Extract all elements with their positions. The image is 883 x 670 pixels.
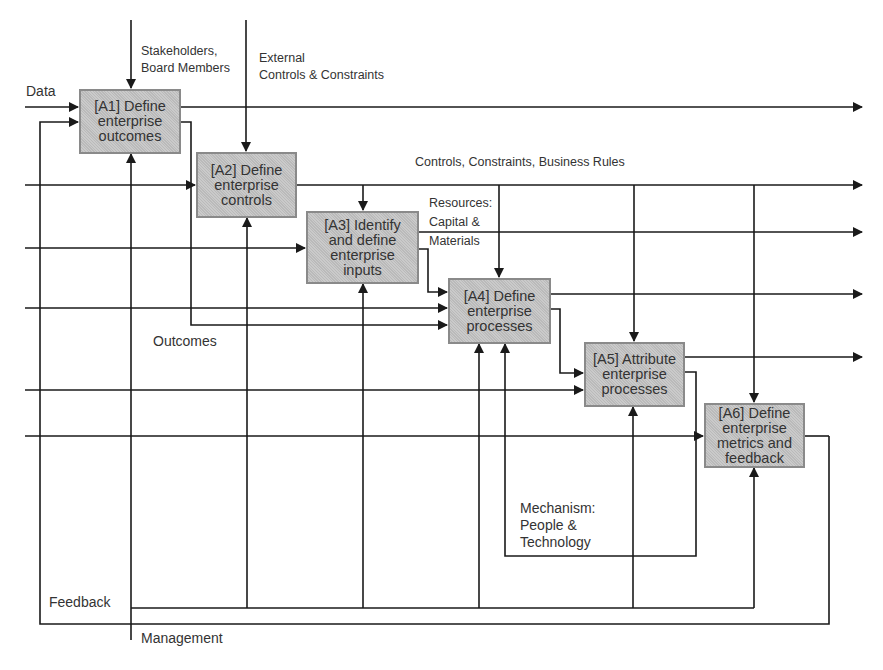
process-box-a6: [A6] Define enterprise metrics and feedb… — [704, 403, 805, 468]
label-mechanism: Mechanism: People & Technology — [520, 500, 595, 551]
label-external-controls: External Controls & Constraints — [259, 50, 384, 84]
label-feedback: Feedback — [49, 594, 110, 611]
idef0-diagram: [A1] Define enterprise outcomes [A2] Def… — [0, 0, 883, 670]
label-outcomes: Outcomes — [153, 333, 217, 350]
label-data: Data — [26, 83, 56, 100]
label-resources: Resources: Capital & Materials — [429, 194, 492, 251]
process-box-a4: [A4] Define enterprise processes — [448, 278, 551, 344]
process-box-a3: [A3] Identify and define enterprise inpu… — [306, 211, 419, 284]
label-stakeholders: Stakeholders, Board Members — [141, 43, 230, 77]
process-box-a5: [A5] Attribute enterprise processes — [584, 342, 685, 407]
process-box-a2: [A2] Define enterprise controls — [196, 152, 297, 218]
label-management: Management — [141, 630, 223, 647]
label-controls-rules: Controls, Constraints, Business Rules — [415, 154, 625, 171]
process-box-a1: [A1] Define enterprise outcomes — [79, 89, 181, 154]
